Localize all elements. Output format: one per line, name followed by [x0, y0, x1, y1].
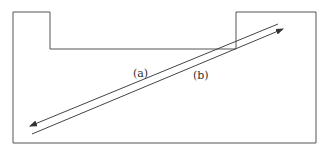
diagram-canvas: [0, 0, 328, 151]
label-b: (b): [193, 70, 209, 81]
label-a: (a): [133, 68, 148, 79]
arrow-b-line: [32, 29, 283, 134]
arrow-a-line: [30, 24, 278, 126]
